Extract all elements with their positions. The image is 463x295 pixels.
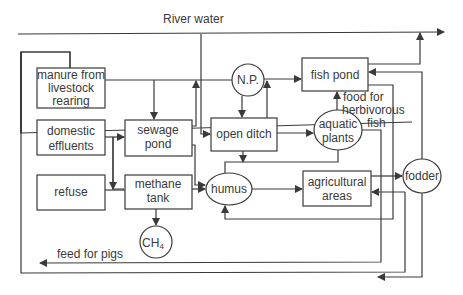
svg-text:fish: fish: [367, 116, 386, 130]
svg-text:livestock: livestock: [48, 81, 95, 95]
svg-text:tank: tank: [147, 191, 171, 205]
river-water-line: [18, 32, 444, 34]
svg-text:food for: food for: [343, 90, 384, 104]
flow-diagram: River water manure from livestock rearin…: [0, 0, 463, 295]
svg-text:plants: plants: [322, 131, 354, 145]
svg-text:sewage: sewage: [137, 123, 179, 137]
svg-text:areas: areas: [322, 189, 352, 203]
svg-text:open ditch: open ditch: [216, 127, 271, 141]
svg-text:feed for pigs: feed for pigs: [57, 247, 123, 261]
svg-text:methane: methane: [135, 177, 182, 191]
svg-text:pond: pond: [145, 137, 172, 151]
svg-text:fodder: fodder: [405, 169, 439, 183]
svg-text:N.P.: N.P.: [237, 73, 259, 87]
svg-text:rearing: rearing: [52, 94, 89, 108]
svg-text:manure from: manure from: [37, 68, 105, 82]
river-water-label: River water: [163, 12, 224, 26]
svg-text:refuse: refuse: [54, 185, 88, 199]
svg-text:effluents: effluents: [48, 139, 93, 153]
svg-text:humus: humus: [211, 182, 247, 196]
svg-text:domestic: domestic: [47, 124, 95, 138]
svg-text:aquatic: aquatic: [319, 117, 358, 131]
svg-text:agricultural: agricultural: [308, 175, 367, 189]
svg-text:herbivorous: herbivorous: [342, 103, 405, 117]
svg-text:fish pond: fish pond: [311, 68, 360, 82]
